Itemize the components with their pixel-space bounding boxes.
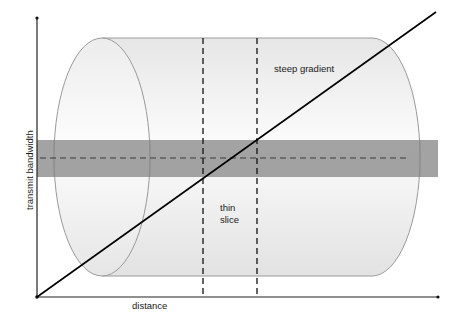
- x-axis-label: distance: [132, 300, 167, 311]
- bandwidth-band: [37, 140, 438, 177]
- diagram-svg: steep gradient thin slice distance trans…: [0, 0, 464, 329]
- steep-gradient-label: steep gradient: [274, 63, 335, 74]
- diagram-canvas: steep gradient thin slice distance trans…: [0, 0, 464, 329]
- thin-label: thin: [220, 202, 235, 213]
- y-axis-label: transmit bandwidth: [24, 130, 35, 210]
- x-axis-end-dot: [436, 295, 439, 298]
- slice-label: slice: [220, 214, 239, 225]
- y-axis-end-dot: [35, 16, 38, 19]
